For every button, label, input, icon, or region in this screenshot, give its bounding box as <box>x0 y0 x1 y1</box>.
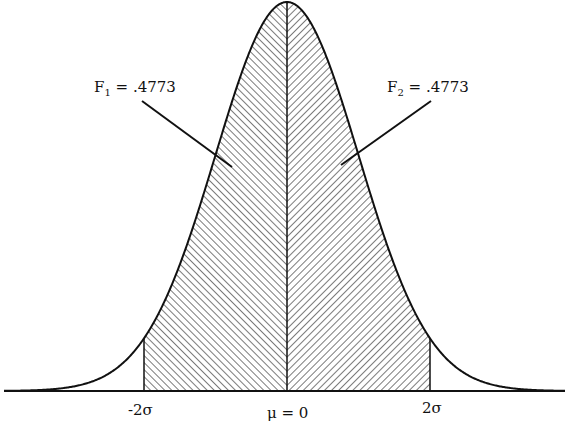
normal-curve-chart <box>0 0 569 427</box>
x-tick-pos2sigma: 2σ <box>422 401 442 416</box>
annotation-pointer-f1 <box>142 101 232 167</box>
annotation-f1: F1 = .4773 <box>94 80 176 98</box>
annotation-pointer-f2 <box>341 101 431 165</box>
x-tick-mean: μ = 0 <box>267 406 308 421</box>
annotation-f2: F2 = .4773 <box>387 80 469 98</box>
x-tick-neg2sigma: -2σ <box>128 403 153 418</box>
shaded-region-f1 <box>144 2 287 391</box>
shaded-region-f2 <box>287 2 430 391</box>
